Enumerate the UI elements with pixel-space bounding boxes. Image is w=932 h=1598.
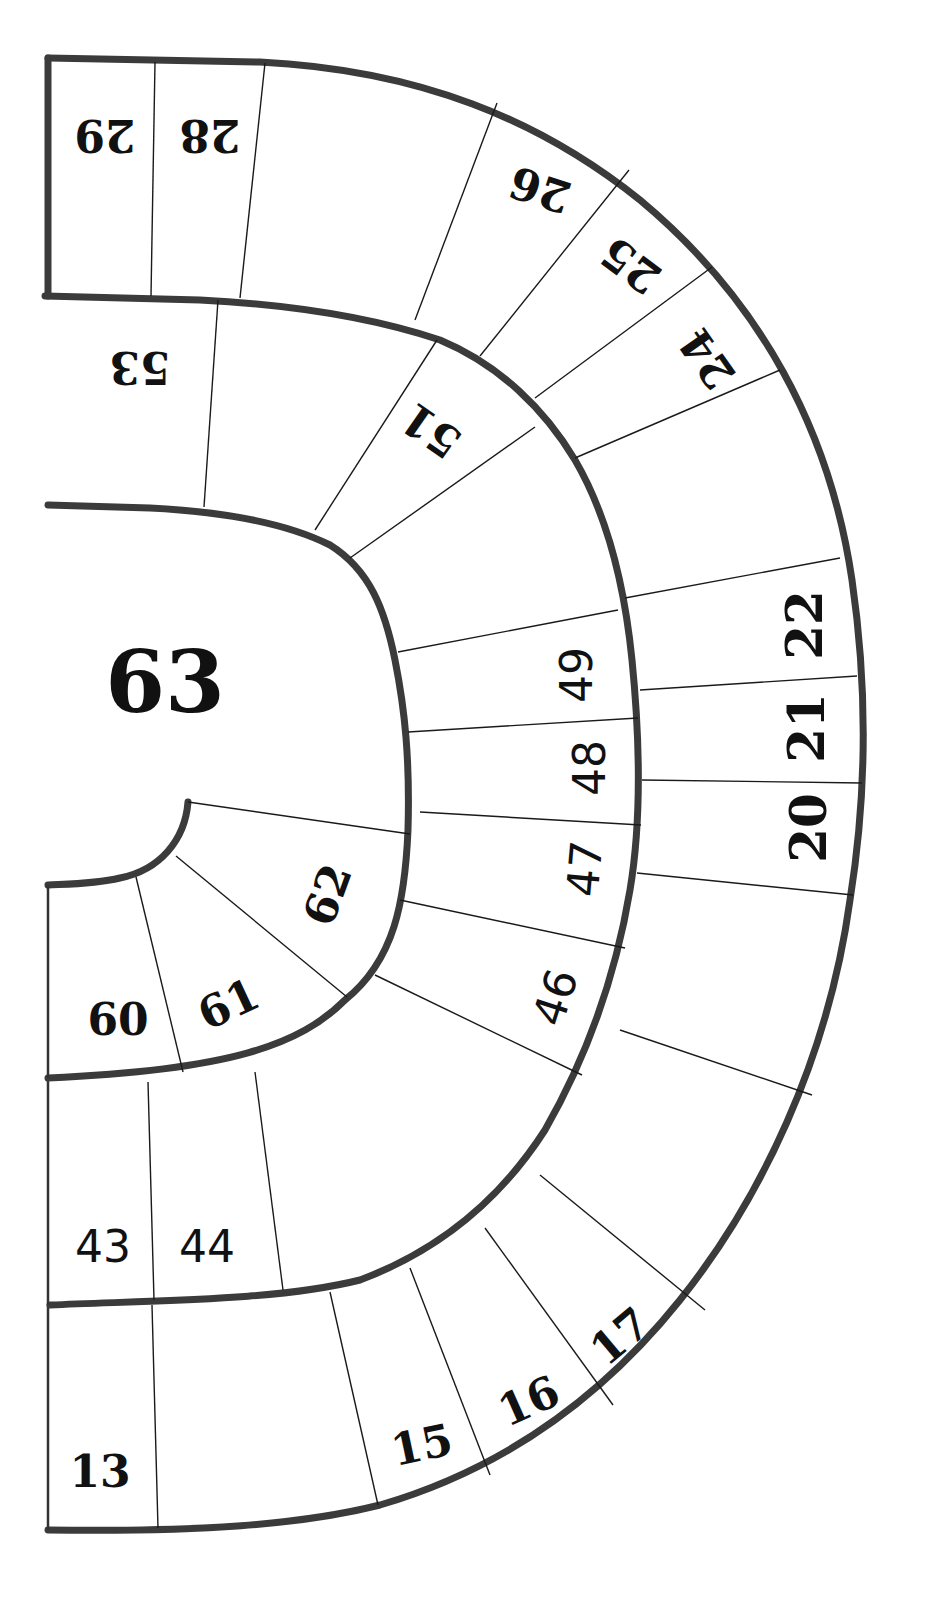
square-24: 24 [669, 319, 746, 398]
middle-track-border [45, 296, 639, 1305]
square-16: 16 [490, 1365, 567, 1436]
square-53: 53 [109, 342, 170, 393]
square-28: 28 [179, 110, 240, 161]
square-17: 17 [580, 1297, 660, 1375]
square-61: 61 [190, 968, 267, 1040]
square-60: 60 [87, 994, 148, 1045]
square-51: 51 [391, 392, 470, 469]
square-13: 13 [69, 1446, 130, 1497]
square-49: 49 [551, 647, 602, 703]
square-15: 15 [387, 1414, 457, 1477]
goal-square-63: 63 [105, 631, 225, 732]
outer-band-dividers [151, 62, 862, 1528]
square-44: 44 [179, 1221, 235, 1272]
square-62: 62 [293, 857, 362, 932]
square-25: 25 [591, 227, 671, 305]
square-26: 26 [503, 156, 577, 223]
square-29: 29 [74, 110, 135, 161]
square-21: 21 [777, 693, 836, 763]
outer-track-border [48, 58, 863, 1530]
square-47: 47 [557, 839, 613, 899]
square-46: 46 [522, 963, 588, 1032]
square-20: 20 [779, 793, 838, 863]
game-board: 29 28 26 25 24 22 21 20 17 16 15 13 53 5… [0, 0, 932, 1598]
square-43: 43 [75, 1221, 131, 1272]
square-22: 22 [775, 590, 834, 660]
center-hook [48, 802, 188, 885]
square-48: 48 [564, 740, 615, 796]
